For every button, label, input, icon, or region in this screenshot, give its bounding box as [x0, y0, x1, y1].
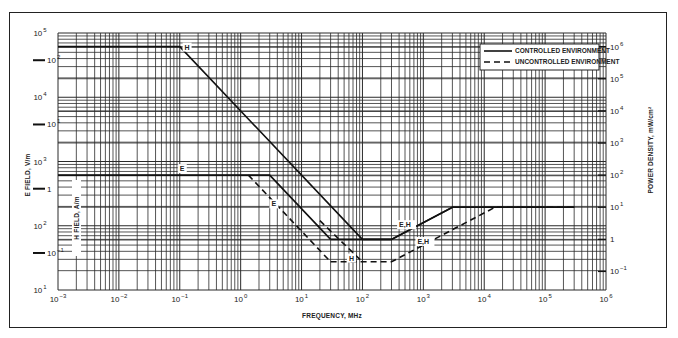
curve-label: H [185, 44, 190, 51]
series-line [320, 221, 363, 262]
series-line [248, 175, 330, 262]
h-tick-label: 102 [47, 54, 61, 65]
y-tick-label: 103 [33, 156, 47, 167]
curve-label: H [349, 255, 354, 262]
legend: CONTROLLED ENVIRONMENTUNCONTROLLED ENVIR… [480, 44, 619, 70]
right-axis-label: POWER DENSITY, mW/cm² [647, 106, 655, 194]
x-tick-label: 103 [417, 293, 431, 304]
x-axis-label: FREQUENCY, MHz [302, 312, 362, 320]
rf-exposure-chart: 10−310−210−11001011021031041051061051041… [0, 0, 678, 338]
secondary-grid [58, 47, 606, 240]
h-tick-label: 1 [47, 185, 52, 194]
legend-label: CONTROLLED ENVIRONMENT [515, 47, 610, 54]
x-tick-label: 100 [234, 293, 248, 304]
pd-tick-label: 1 [610, 235, 615, 244]
x-tick-label: 101 [295, 293, 309, 304]
grid [58, 33, 606, 290]
pd-tick-label: 104 [610, 105, 624, 116]
curve-label: E,H [417, 238, 429, 246]
h-tick-label: 101 [47, 118, 61, 129]
h-axis-label: H FIELD, A/m [73, 196, 81, 239]
pd-tick-label: 103 [610, 137, 624, 148]
h-tick-label: 10−1 [47, 247, 64, 258]
y-tick-label: 102 [33, 220, 47, 231]
curve-label: E [271, 200, 276, 207]
x-tick-label: 104 [478, 293, 492, 304]
curve-label: E [180, 165, 185, 172]
x-tick-label: 106 [599, 293, 613, 304]
x-tick-label: 10−2 [111, 293, 128, 304]
pd-tick-label: 101 [610, 201, 624, 212]
x-tick-label: 10−1 [171, 293, 188, 304]
pd-tick-label: 106 [610, 41, 624, 52]
pd-tick-label: 102 [610, 169, 624, 180]
y-tick-label: 101 [33, 284, 47, 295]
x-tick-label: 105 [538, 293, 552, 304]
curve-label: E,H [399, 221, 411, 229]
y-axis-label: E FIELD, V/m [24, 154, 32, 197]
pd-tick-label: 105 [610, 73, 624, 84]
x-tick-label: 102 [356, 293, 370, 304]
legend-label: UNCONTROLLED ENVIRONMENT [515, 58, 619, 65]
y-tick-label: 105 [33, 27, 47, 38]
pd-tick-label: 10−1 [610, 265, 627, 276]
y-tick-label: 104 [33, 91, 47, 102]
x-tick-label: 10−3 [50, 293, 67, 304]
